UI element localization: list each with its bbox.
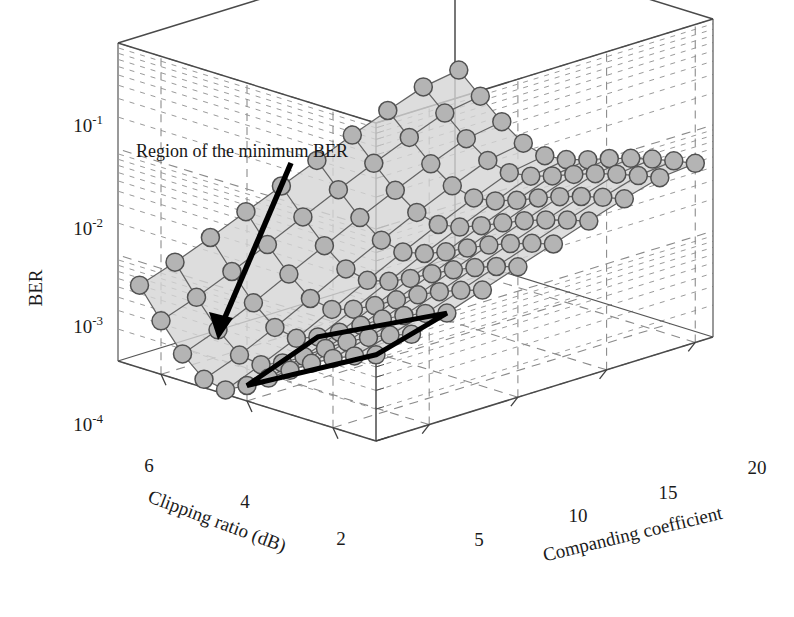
box-edge-top-back-left (118, 0, 455, 43)
z-tick-mark (376, 437, 389, 441)
surface-node-marker (423, 265, 441, 283)
y-tick-label-1: 10 (569, 505, 588, 526)
surface-node-marker (244, 294, 262, 312)
surface-node-marker (472, 217, 490, 235)
surface-node-marker (329, 181, 347, 199)
surface-node-marker (429, 216, 447, 234)
surface-node-marker (487, 258, 505, 276)
surface-node-marker (237, 203, 255, 221)
surface-node-marker (443, 177, 461, 195)
y-tick-label-2: 15 (659, 482, 678, 503)
surface-node-marker (217, 381, 235, 399)
surface-node-marker (400, 128, 418, 146)
surface-node-marker (543, 167, 561, 185)
x-tick-label-2: 2 (336, 528, 346, 549)
surface-node-marker (436, 104, 454, 122)
y-tick-label-3: 20 (748, 457, 767, 478)
surface-node-marker (536, 147, 554, 165)
box-edge-top-back-right (455, 0, 713, 19)
z-tick-label-0: 10-1 (73, 112, 103, 136)
surface-node-marker (466, 259, 484, 277)
surface-node-marker (315, 237, 333, 255)
surface-node-marker (394, 243, 412, 261)
surface-node-marker (608, 165, 626, 183)
z-axis-title: BER (25, 269, 46, 306)
surface-node-marker (452, 281, 470, 299)
x-axis-title: Clipping ratio (dB) (145, 486, 289, 558)
surface-node-marker (529, 189, 547, 207)
figure-canvas: 10-1 10-2 10-3 10-4 BER 6 4 2 Clipping r… (0, 0, 794, 617)
surface-node-marker (457, 130, 475, 148)
surface-node-marker (580, 212, 598, 230)
surface-node-marker (523, 234, 541, 252)
surface-node-marker (166, 253, 184, 271)
surface-node-marker (480, 236, 498, 254)
surface-node-marker (509, 258, 527, 276)
surface-node-marker (586, 165, 604, 183)
z-tick-label-3: 10-4 (73, 411, 103, 435)
surface-node-marker (465, 189, 483, 207)
box-edge-top-left (118, 43, 376, 123)
wall-left-hgrid (118, 53, 376, 133)
surface-node-marker (629, 167, 647, 185)
surface-node-marker (408, 203, 426, 221)
surface-node-marker (544, 235, 562, 253)
ber-3d-surface-plot: 10-1 10-2 10-3 10-4 BER 6 4 2 Clipping r… (0, 0, 794, 617)
surface-node-marker (294, 208, 312, 226)
surface-node-marker (444, 261, 462, 279)
surface-node-marker (174, 345, 192, 363)
surface-node-marker (493, 113, 511, 131)
surface-node-marker (594, 188, 612, 206)
surface-node-marker (451, 218, 469, 236)
surface-node-marker (409, 286, 427, 304)
surface-node-marker (558, 211, 576, 229)
z-tick-mark (376, 388, 384, 390)
surface-node-marker (615, 190, 633, 208)
surface-node-marker (514, 134, 532, 152)
surface-node-marker (344, 300, 362, 318)
surface-node-marker (665, 152, 683, 170)
surface-node-marker (437, 243, 455, 261)
z-tick-label-1: 10-2 (73, 215, 103, 239)
annotation-label: Region of the minimum BER (136, 141, 348, 161)
surface-node-marker (280, 265, 298, 283)
surface-node-marker (386, 181, 404, 199)
surface-node-marker (337, 260, 355, 278)
z-tick-mark (376, 407, 384, 409)
surface-node-marker (372, 231, 390, 249)
x-tick-label-1: 4 (240, 491, 250, 512)
surface-node-marker (471, 87, 489, 105)
surface-node-marker (195, 370, 213, 388)
surface-node-marker (458, 239, 476, 257)
surface-node-marker (415, 245, 433, 263)
surface-node-marker (686, 154, 704, 172)
surface-node-marker (572, 188, 590, 206)
surface-node-marker (537, 211, 555, 229)
surface-node-marker (501, 235, 519, 253)
surface-node-marker (358, 271, 376, 289)
surface-node-marker (486, 192, 504, 210)
surface-node-marker (651, 169, 669, 187)
surface-node-marker (479, 151, 497, 169)
surface-node-marker (422, 155, 440, 173)
surface-node-marker (522, 167, 540, 185)
surface-node-marker (365, 154, 383, 172)
surface-node-marker (401, 269, 419, 287)
surface-node-marker (201, 229, 219, 247)
surface-node-marker (515, 212, 533, 230)
z-tick-labels: 10-1 10-2 10-3 10-4 (73, 112, 103, 435)
surface-node-marker (351, 209, 369, 227)
surface-node-marker (430, 283, 448, 301)
surface-node-marker (152, 312, 170, 330)
surface-node-marker (131, 276, 149, 294)
surface-node-marker (450, 61, 468, 79)
z-tick-mark (376, 364, 384, 366)
surface-node-marker (414, 78, 432, 96)
surface-node-marker (508, 191, 526, 209)
x-tick-label-0: 6 (144, 455, 154, 476)
surface-node-marker (231, 346, 249, 364)
surface-node-marker (494, 214, 512, 232)
surface-node-marker (380, 272, 398, 290)
surface-node-marker (379, 102, 397, 120)
z-tick-label-2: 10-3 (73, 313, 103, 337)
